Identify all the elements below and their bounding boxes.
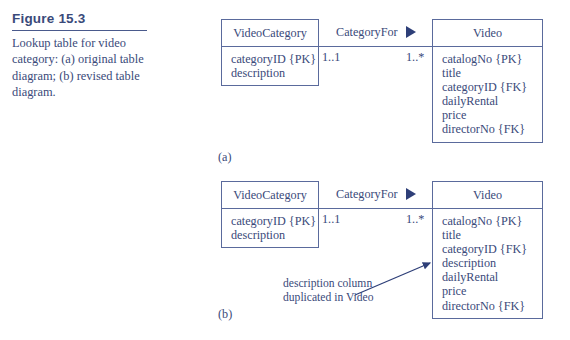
attribute-row: categoryID {FK} <box>442 242 542 256</box>
attribute-list-videocategory: categoryID {PK} description <box>222 47 318 85</box>
diagram-sub-label-b: (b) <box>218 307 232 321</box>
attribute-row: categoryID {PK} <box>231 52 318 66</box>
attribute-row: description <box>231 228 318 242</box>
filled-triangle-right-icon <box>406 188 416 200</box>
figure-heading: Figure 15.3 <box>12 11 152 27</box>
attribute-row: directorNo {FK} <box>442 299 542 313</box>
diagram-sub-label-a: (a) <box>218 150 232 164</box>
multiplicity-right: 1..* <box>406 50 424 64</box>
multiplicity-left: 1..1 <box>322 212 340 226</box>
table-box-videocategory: VideoCategory categoryID {PK} descriptio… <box>221 19 319 86</box>
attribute-list-video: catalogNo {PK} title categoryID {FK} dai… <box>433 47 542 142</box>
attribute-row: catalogNo {PK} <box>442 52 542 66</box>
attribute-row: categoryID {FK} <box>442 80 542 94</box>
figure-caption-block: Figure 15.3 Lookup table for video categ… <box>12 11 152 101</box>
table-box-video: Video catalogNo {PK} title categoryID {F… <box>432 19 543 143</box>
annotation-line-1: description column <box>283 277 372 291</box>
figure-caption-text: Lookup table for video category: (a) ori… <box>12 35 152 101</box>
attribute-row: price <box>442 284 542 298</box>
table-box-video: Video catalogNo {PK} title categoryID {F… <box>432 181 543 319</box>
caption-rule <box>12 30 147 31</box>
association-label: CategoryFor <box>336 187 398 201</box>
attribute-row-description: description <box>442 256 542 270</box>
attribute-row: dailyRental <box>442 270 542 284</box>
attribute-list-videocategory: categoryID {PK} description <box>222 209 318 247</box>
table-name-videocategory: VideoCategory <box>222 20 318 47</box>
multiplicity-right: 1..* <box>406 212 424 226</box>
table-name-videocategory: VideoCategory <box>222 182 318 209</box>
multiplicity-left: 1..1 <box>322 50 340 64</box>
table-name-video: Video <box>433 182 542 209</box>
attribute-list-video: catalogNo {PK} title categoryID {FK} des… <box>433 209 542 318</box>
association-label: CategoryFor <box>336 25 398 39</box>
attribute-row: categoryID {PK} <box>231 214 318 228</box>
table-box-videocategory: VideoCategory categoryID {PK} descriptio… <box>221 181 319 248</box>
association-line <box>318 208 432 209</box>
association-line <box>318 46 432 47</box>
filled-triangle-right-icon <box>406 26 416 38</box>
attribute-row: dailyRental <box>442 94 542 108</box>
attribute-row: price <box>442 108 542 122</box>
attribute-row: title <box>442 66 542 80</box>
annotation-line-2: duplicated in Video <box>283 291 374 305</box>
attribute-row: description <box>231 66 318 80</box>
attribute-row: directorNo {FK} <box>442 122 542 136</box>
attribute-row: catalogNo {PK} <box>442 214 542 228</box>
table-name-video: Video <box>433 20 542 47</box>
attribute-row: title <box>442 228 542 242</box>
